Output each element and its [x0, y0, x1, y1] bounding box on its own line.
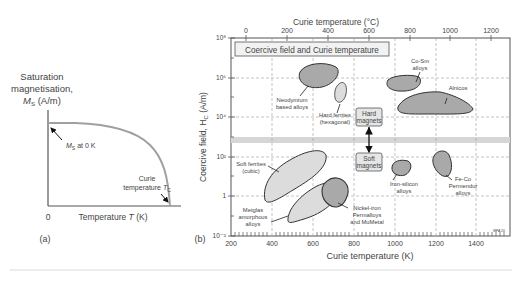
- xtick-1200: 1200: [428, 240, 444, 247]
- region-nickel-iron: [322, 178, 348, 207]
- soft-magnets-label-1: Soft: [363, 155, 375, 162]
- chart-title: Coercive field and Curie temperature: [245, 46, 379, 55]
- label-cosm-2: alloys: [413, 65, 428, 71]
- xtick-top-800: 800: [404, 27, 416, 34]
- xtick-1400: 1400: [468, 240, 484, 247]
- label-nife-1: Nickel-iron: [353, 205, 380, 211]
- panel-a-x-origin: 0: [46, 212, 51, 222]
- tc-annotation-line1: Curie: [139, 175, 156, 182]
- label-feco-1: Fe-Co: [455, 176, 471, 182]
- x-tick-labels-bottom: 200 400 600 800 1000 1200 1400: [225, 240, 484, 247]
- label-metglas-3: alloys: [246, 221, 261, 227]
- credit-mark: MFA 20: [493, 229, 505, 233]
- label-metglas-2: amorphous: [238, 214, 267, 220]
- label-neodymium-1: Neodymium: [277, 97, 308, 103]
- xtick-600: 600: [307, 240, 319, 247]
- panel-a-ylabel-line1: Saturation: [20, 71, 63, 82]
- xtick-top-200: 200: [281, 27, 293, 34]
- magnetisation-curve: [48, 123, 170, 206]
- xtick-top-1200: 1200: [483, 27, 499, 34]
- top-axis-title: Curie temperature (°C): [293, 17, 379, 27]
- ytick-1e4: 10⁴: [216, 113, 226, 120]
- panel-b-label: (b): [195, 234, 206, 244]
- xtick-top-1000: 1000: [442, 27, 458, 34]
- soft-magnets-label-2: magnets: [357, 162, 383, 170]
- xtick-top-600: 600: [363, 27, 375, 34]
- tc-annotation-line2: temperature TC: [123, 184, 171, 193]
- region-cosm: [387, 75, 421, 91]
- label-fesi-1: Iron-silicon: [390, 181, 418, 187]
- label-soft-ferrites-1: Soft ferrites: [236, 161, 266, 167]
- ytick-1e8: 10⁸: [216, 34, 226, 41]
- xtick-200: 200: [225, 240, 237, 247]
- label-fesi-2: alloys: [397, 188, 412, 194]
- label-nife-2: Permalloys: [353, 212, 382, 218]
- label-metglas-1: Metglas: [243, 207, 263, 213]
- label-alnicos: Alnicos: [449, 85, 468, 91]
- bottom-axis-title: Curie temperature (K): [326, 251, 413, 261]
- panel-a-ylabel-line2: magnetisation,: [11, 83, 73, 94]
- figure: Saturation magnetisation, MS (A/m) MS at…: [0, 0, 531, 282]
- xtick-1000: 1000: [387, 240, 403, 247]
- y-tick-labels: 10⁸ 10⁶ 10⁴ 10² 1 10⁻²: [213, 34, 227, 239]
- hard-magnets-label-1: Hard: [362, 110, 376, 117]
- xtick-400: 400: [266, 240, 278, 247]
- ms-annotation: MS at 0 K: [66, 142, 96, 151]
- panel-a: Saturation magnetisation, MS (A/m) MS at…: [11, 71, 181, 244]
- tc-arrow-icon: [161, 194, 168, 202]
- xtick-top-400: 400: [322, 27, 334, 34]
- ytick-1e-2: 10⁻²: [213, 232, 227, 239]
- label-feco-2: Permendur: [449, 183, 478, 189]
- region-iron-silicon: [392, 160, 411, 175]
- label-neodymium-2: based alloys: [276, 104, 308, 110]
- panel-a-label: (a): [40, 234, 51, 244]
- panel-a-xlabel: Temperature T (K): [79, 212, 148, 222]
- ytick-1e2: 10²: [217, 153, 227, 160]
- hard-magnets-label-2: magnets: [357, 117, 383, 125]
- x-tick-labels-top: 0 200 400 600 800 1000 1200: [244, 27, 499, 34]
- label-nife-3: and MuMetal: [350, 219, 384, 225]
- ytick-1e6: 10⁶: [216, 74, 226, 81]
- ytick-1: 1: [222, 192, 226, 199]
- label-cosm-1: Co-Sm: [411, 58, 429, 64]
- panel-a-ylabel-line3: MS (A/m): [23, 95, 61, 107]
- label-soft-ferrites-2: (cubic): [242, 168, 259, 174]
- panel-b: (b) Curie temperature (°C): [195, 17, 511, 261]
- y-axis-title: Coercive field, HC (A/m): [198, 92, 209, 182]
- xtick-800: 800: [348, 240, 360, 247]
- hard-soft-band: [231, 137, 510, 143]
- label-hard-ferrites-1: Hard ferrites: [319, 112, 351, 118]
- label-hard-ferrites-2: (hexagonal): [320, 119, 351, 125]
- label-feco-3: alloys: [456, 190, 471, 196]
- ms-arrow-icon: [51, 128, 62, 140]
- xtick-top-0: 0: [244, 27, 248, 34]
